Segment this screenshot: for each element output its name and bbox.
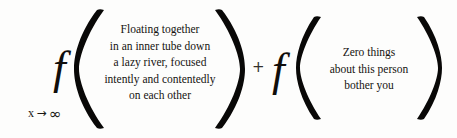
open-paren-2: [296, 15, 324, 121]
argument-line: Floating together: [104, 21, 216, 38]
limit-subscript: x→∞: [28, 103, 62, 121]
argument-line: Zero things: [322, 44, 416, 61]
function-symbol-2: f: [272, 47, 285, 93]
close-paren-2: [414, 15, 442, 121]
limit-variable: x: [28, 106, 35, 120]
argument-line: intently and contentedly: [104, 71, 216, 88]
argument-line: about this person: [322, 61, 416, 78]
plus-operator: +: [252, 58, 265, 76]
close-paren-1: [211, 8, 245, 130]
argument-text-1: Floating together in an inner tube down …: [104, 21, 216, 104]
function-symbol-1: f: [53, 45, 66, 91]
open-paren-1: [74, 8, 108, 130]
equation-canvas: x→∞ f Floating together in an inner tube…: [0, 0, 457, 138]
argument-text-2: Zero things about this person bother you: [322, 44, 416, 94]
right-arrow-icon: →: [35, 106, 50, 120]
argument-line: a lazy river, focused: [104, 54, 216, 71]
argument-line: in an inner tube down: [104, 38, 216, 55]
infinity-icon: ∞: [49, 105, 62, 123]
argument-line: on each other: [104, 87, 216, 104]
argument-line: bother you: [322, 77, 416, 94]
